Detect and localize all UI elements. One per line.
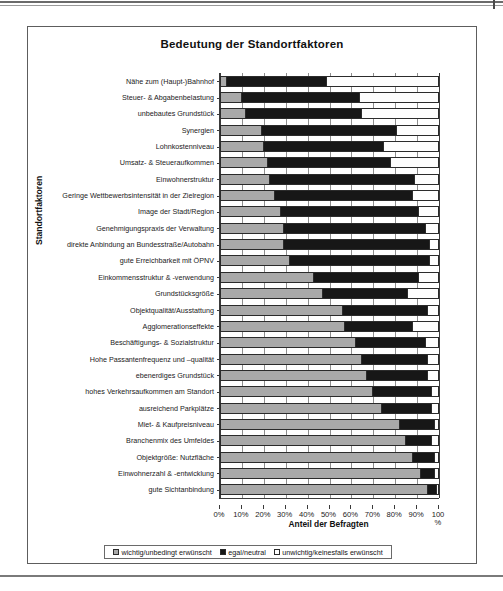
bar-row (220, 223, 439, 234)
legend-item-unwichtig: unwichtig/keinesfalls erwünscht (274, 548, 383, 557)
y-axis-tick (217, 359, 220, 360)
bar-segment-wichtig (220, 125, 262, 136)
category-label: Einwohnerzahl & -entwicklung (118, 469, 214, 478)
bar-row (220, 354, 439, 365)
bar-row (220, 255, 439, 266)
bar-segment-egal (264, 141, 384, 152)
y-axis-tick (217, 294, 220, 295)
y-axis-tick (217, 424, 220, 425)
bar-segment-egal (284, 223, 426, 234)
bar-segment-unwichtig (428, 305, 439, 316)
bar-segment-unwichtig (413, 321, 439, 332)
y-axis-tick (217, 277, 220, 278)
bar-row (220, 305, 439, 316)
x-axis-tick (329, 505, 330, 509)
bar-segment-egal (262, 125, 398, 136)
bar-segment-unwichtig (432, 386, 439, 397)
bar-segment-wichtig (220, 386, 373, 397)
gridline-10pct (242, 73, 243, 498)
x-axis-tick-label: 10% (233, 510, 248, 519)
bar-segment-egal (227, 76, 328, 87)
legend-label: egal/neutral (228, 548, 266, 557)
bar-segment-unwichtig (391, 157, 439, 168)
bar-segment-wichtig (220, 174, 270, 185)
bar-segment-egal (284, 239, 431, 250)
legend-swatch-unwichtig-icon (274, 549, 280, 555)
category-label: Objektgröße: Nutzfläche (136, 453, 214, 462)
bar-row (220, 403, 439, 414)
y-axis-tick (217, 212, 220, 213)
y-axis-tick (217, 310, 220, 311)
bar-segment-wichtig (220, 452, 413, 463)
y-axis-tick (217, 490, 220, 491)
bar-segment-wichtig (220, 435, 406, 446)
scan-artifact-rule-top (0, 1, 503, 3)
bar-segment-egal (428, 484, 437, 495)
bar-segment-egal (367, 370, 428, 381)
gridline-0pct (220, 73, 221, 498)
bar-segment-unwichtig (415, 174, 439, 185)
x-axis-title: Anteil der Befragten (219, 519, 438, 529)
bar-segment-wichtig (220, 206, 281, 217)
bar-row (220, 435, 439, 446)
y-axis-tick (217, 98, 220, 99)
legend-label: unwichtig/keinesfalls erwünscht (282, 548, 382, 557)
bar-segment-egal (406, 435, 432, 446)
x-axis-tick (438, 505, 439, 509)
bar-segment-egal (270, 174, 415, 185)
bar-segment-wichtig (220, 468, 421, 479)
bar-segment-unwichtig (426, 223, 439, 234)
bar-segment-wichtig (220, 337, 356, 348)
gridline-70pct (373, 73, 374, 498)
bar-segment-unwichtig (435, 419, 439, 430)
bar-row (220, 337, 439, 348)
bar-row (220, 157, 439, 168)
bar-segment-egal (275, 190, 413, 201)
bar-segment-unwichtig (430, 239, 439, 250)
gridline-20pct (264, 73, 265, 498)
x-axis-tick-label: 90% (408, 510, 423, 519)
bar-segment-wichtig (220, 141, 264, 152)
bar-segment-unwichtig (362, 108, 439, 119)
bar-segment-egal (290, 255, 430, 266)
category-label: Einwohnerstruktur (156, 175, 214, 184)
gridline-100pct (439, 73, 440, 498)
bar-segment-unwichtig (432, 435, 439, 446)
category-label: Einkommensstruktur & -verwendung (98, 273, 214, 282)
bar-segment-wichtig (220, 321, 345, 332)
y-axis-tick (217, 81, 220, 82)
category-label: Umsatz- & Steueraufkommen (120, 158, 214, 167)
category-label: unbebautes Grundstück (138, 109, 214, 118)
y-axis-tick (217, 261, 220, 262)
gridline-50pct (330, 73, 331, 498)
bar-segment-egal (242, 92, 360, 103)
bar-segment-unwichtig (419, 272, 439, 283)
category-label: direkte Anbindung an Bundesstraße/Autoba… (67, 240, 214, 249)
category-label: Hohe Passantenfrequenz und –qualität (90, 355, 214, 364)
bar-segment-unwichtig (327, 76, 439, 87)
category-label: ebenerdiges Grundstück (136, 371, 214, 380)
category-label: Agglomerationseffekte (143, 322, 214, 331)
y-axis-tick (217, 163, 220, 164)
chart-figure: Bedeutung der Standortfaktoren Standortf… (27, 26, 477, 564)
bar-segment-wichtig (220, 354, 362, 365)
x-axis-tick-label: 50% (321, 510, 336, 519)
bar-segment-wichtig (220, 305, 343, 316)
category-label: Branchenmix des Umfeldes (126, 436, 214, 445)
bar-segment-wichtig (220, 288, 323, 299)
x-axis-tick-label: 40% (299, 510, 314, 519)
x-axis-tick (285, 505, 286, 509)
y-axis-tick (217, 473, 220, 474)
category-axis-labels: Nähe zum (Haupt-)BahnhofSteuer- & Abgabe… (28, 73, 214, 498)
bar-segment-egal (400, 419, 435, 430)
bar-segment-egal (373, 386, 432, 397)
bar-row (220, 468, 439, 479)
bar-segment-egal (382, 403, 432, 414)
plot-area (219, 73, 439, 499)
legend-item-wichtig: wichtig/unbedingt erwünscht (113, 548, 212, 557)
x-axis-tick-label: 20% (255, 510, 270, 519)
gridline-90pct (417, 73, 418, 498)
legend-swatch-egal-icon (220, 549, 226, 555)
bar-row (220, 141, 439, 152)
bar-segment-unwichtig (397, 125, 439, 136)
